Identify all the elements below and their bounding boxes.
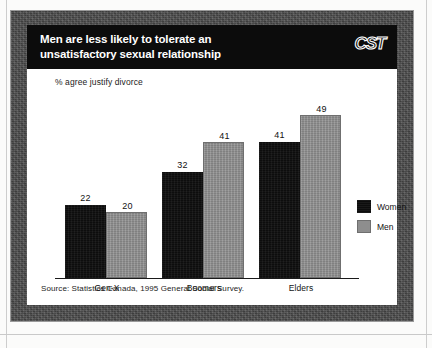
bar-women-genx: 22 xyxy=(65,205,106,278)
legend-label-women: Women xyxy=(377,202,406,212)
page-edge-line-bottom xyxy=(0,334,432,335)
bar-men-genx: 20 xyxy=(106,212,147,278)
cst-logo: CST xyxy=(355,34,385,54)
bar-group-boomers: 32 41 Boomers xyxy=(162,94,246,278)
bar-group-elders: 41 49 Elders xyxy=(259,94,343,278)
bar-men-boomers: 41 xyxy=(203,142,244,278)
chart-card: Men are less likely to tolerate an unsat… xyxy=(27,25,397,305)
bar-value-women-elders: 41 xyxy=(259,130,300,142)
legend-label-men: Men xyxy=(377,222,394,232)
bar-value-women-boomers: 32 xyxy=(162,160,203,172)
bar-value-men-genx: 20 xyxy=(107,201,148,213)
category-label-elders: Elders xyxy=(259,278,343,293)
bar-value-men-elders: 49 xyxy=(301,104,342,116)
legend-swatch-women-icon xyxy=(357,200,371,213)
y-axis-caption: % agree justify divorce xyxy=(55,77,143,87)
bar-women-boomers: 32 xyxy=(162,172,203,278)
source-note: Source: Statistics Canada, 1995 General … xyxy=(41,284,244,293)
bar-men-elders: 49 xyxy=(300,115,341,278)
bar-value-men-boomers: 41 xyxy=(204,131,245,143)
title-banner: Men are less likely to tolerate an unsat… xyxy=(27,25,397,69)
page-edge-line-left xyxy=(6,0,7,348)
legend-swatch-men-icon xyxy=(357,220,371,233)
legend-item-men: Men xyxy=(357,220,417,233)
legend-item-women: Women xyxy=(357,200,417,213)
bar-value-women-genx: 22 xyxy=(65,193,106,205)
plot-area: 22 20 Gen-X 32 41 Boomers xyxy=(55,93,355,279)
bar-women-elders: 41 xyxy=(259,142,300,278)
scanned-page: Men are less likely to tolerate an unsat… xyxy=(0,0,432,348)
bar-group-genx: 22 20 Gen-X xyxy=(65,94,149,278)
chart-title: Men are less likely to tolerate an unsat… xyxy=(40,32,310,61)
page-edge-line-right xyxy=(426,0,427,348)
chart-legend: Women Men xyxy=(357,200,417,240)
chart-outer-frame: Men are less likely to tolerate an unsat… xyxy=(11,11,413,321)
